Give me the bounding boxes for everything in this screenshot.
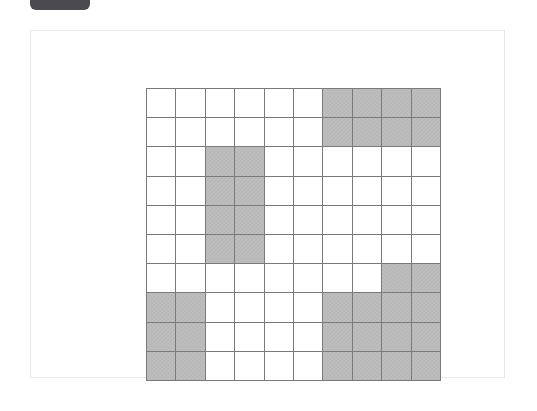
grid-cell-r1-c10[interactable]	[411, 89, 440, 118]
grid-cell-r9-c6[interactable]	[293, 322, 322, 351]
grid-cell-r1-c3[interactable]	[205, 89, 234, 118]
grid-cell-r2-c5[interactable]	[264, 118, 293, 147]
grid-cell-r8-c7[interactable]	[323, 293, 352, 322]
grid-cell-r8-c1[interactable]	[147, 293, 176, 322]
grid-cell-r8-c3[interactable]	[205, 293, 234, 322]
grid-cell-r4-c2[interactable]	[176, 176, 205, 205]
grid-cell-r5-c7[interactable]	[323, 205, 352, 234]
grid-cell-r7-c4[interactable]	[235, 264, 264, 293]
grid-cell-r10-c7[interactable]	[323, 351, 352, 380]
grid-cell-r9-c3[interactable]	[205, 322, 234, 351]
grid-cell-r6-c3[interactable]	[205, 234, 234, 263]
grid-cell-r10-c8[interactable]	[352, 351, 381, 380]
grid-cell-r4-c8[interactable]	[352, 176, 381, 205]
grid-cell-r5-c6[interactable]	[293, 205, 322, 234]
grid-cell-r1-c2[interactable]	[176, 89, 205, 118]
grid-cell-r5-c1[interactable]	[147, 205, 176, 234]
grid-cell-r4-c10[interactable]	[411, 176, 440, 205]
grid-cell-r3-c6[interactable]	[293, 147, 322, 176]
grid-cell-r7-c1[interactable]	[147, 264, 176, 293]
grid-cell-r1-c1[interactable]	[147, 89, 176, 118]
grid-cell-r1-c8[interactable]	[352, 89, 381, 118]
grid-cell-r6-c4[interactable]	[235, 234, 264, 263]
grid-cell-r2-c8[interactable]	[352, 118, 381, 147]
grid-cell-r10-c3[interactable]	[205, 351, 234, 380]
grid-cell-r4-c9[interactable]	[382, 176, 411, 205]
grid-cell-r4-c7[interactable]	[323, 176, 352, 205]
grid-cell-r3-c2[interactable]	[176, 147, 205, 176]
grid-cell-r10-c10[interactable]	[411, 351, 440, 380]
grid-cell-r6-c10[interactable]	[411, 234, 440, 263]
grid-cell-r9-c2[interactable]	[176, 322, 205, 351]
grid-cell-r2-c7[interactable]	[323, 118, 352, 147]
grid-cell-r9-c4[interactable]	[235, 322, 264, 351]
grid-cell-r1-c6[interactable]	[293, 89, 322, 118]
grid-cell-r8-c2[interactable]	[176, 293, 205, 322]
grid-cell-r3-c4[interactable]	[235, 147, 264, 176]
grid-cell-r2-c2[interactable]	[176, 118, 205, 147]
grid-cell-r2-c1[interactable]	[147, 118, 176, 147]
grid-cell-r6-c7[interactable]	[323, 234, 352, 263]
grid-cell-r9-c9[interactable]	[382, 322, 411, 351]
grid-cell-r1-c9[interactable]	[382, 89, 411, 118]
grid-cell-r10-c9[interactable]	[382, 351, 411, 380]
grid-cell-r3-c5[interactable]	[264, 147, 293, 176]
grid-cell-r6-c2[interactable]	[176, 234, 205, 263]
grid-cell-r9-c8[interactable]	[352, 322, 381, 351]
grid-cell-r10-c4[interactable]	[235, 351, 264, 380]
grid-cell-r2-c3[interactable]	[205, 118, 234, 147]
grid-cell-r7-c5[interactable]	[264, 264, 293, 293]
grid-cell-r5-c10[interactable]	[411, 205, 440, 234]
grid-cell-r5-c2[interactable]	[176, 205, 205, 234]
grid-cell-r7-c6[interactable]	[293, 264, 322, 293]
grid-cell-r10-c2[interactable]	[176, 351, 205, 380]
grid-cell-r6-c8[interactable]	[352, 234, 381, 263]
grid-cell-r6-c5[interactable]	[264, 234, 293, 263]
grid-cell-r9-c7[interactable]	[323, 322, 352, 351]
grid-cell-r3-c9[interactable]	[382, 147, 411, 176]
grid-cell-r2-c9[interactable]	[382, 118, 411, 147]
grid-cell-r3-c8[interactable]	[352, 147, 381, 176]
grid-cell-r7-c8[interactable]	[352, 264, 381, 293]
grid-cell-r5-c5[interactable]	[264, 205, 293, 234]
grid-cell-r5-c9[interactable]	[382, 205, 411, 234]
grid-cell-r6-c1[interactable]	[147, 234, 176, 263]
grid-cell-r8-c10[interactable]	[411, 293, 440, 322]
grid-cell-r2-c4[interactable]	[235, 118, 264, 147]
grid-cell-r8-c4[interactable]	[235, 293, 264, 322]
grid-cell-r9-c5[interactable]	[264, 322, 293, 351]
grid-cell-r5-c3[interactable]	[205, 205, 234, 234]
grid-cell-r1-c4[interactable]	[235, 89, 264, 118]
grid-cell-r7-c3[interactable]	[205, 264, 234, 293]
grid-cell-r4-c4[interactable]	[235, 176, 264, 205]
top-badge[interactable]	[30, 0, 90, 10]
grid-cell-r4-c5[interactable]	[264, 176, 293, 205]
grid-cell-r5-c4[interactable]	[235, 205, 264, 234]
grid-cell-r1-c7[interactable]	[323, 89, 352, 118]
grid-cell-r4-c3[interactable]	[205, 176, 234, 205]
grid-cell-r3-c1[interactable]	[147, 147, 176, 176]
grid-cell-r8-c5[interactable]	[264, 293, 293, 322]
grid-cell-r1-c5[interactable]	[264, 89, 293, 118]
grid-cell-r8-c8[interactable]	[352, 293, 381, 322]
grid-cell-r8-c6[interactable]	[293, 293, 322, 322]
grid-cell-r7-c2[interactable]	[176, 264, 205, 293]
grid-cell-r4-c1[interactable]	[147, 176, 176, 205]
grid-cell-r3-c3[interactable]	[205, 147, 234, 176]
grid-cell-r7-c7[interactable]	[323, 264, 352, 293]
grid-cell-r3-c10[interactable]	[411, 147, 440, 176]
grid-cell-r2-c10[interactable]	[411, 118, 440, 147]
grid-cell-r7-c10[interactable]	[411, 264, 440, 293]
grid-cell-r9-c1[interactable]	[147, 322, 176, 351]
grid-cell-r2-c6[interactable]	[293, 118, 322, 147]
grid-cell-r5-c8[interactable]	[352, 205, 381, 234]
grid-cell-r8-c9[interactable]	[382, 293, 411, 322]
grid-cell-r4-c6[interactable]	[293, 176, 322, 205]
grid-cell-r10-c1[interactable]	[147, 351, 176, 380]
grid-cell-r6-c9[interactable]	[382, 234, 411, 263]
grid-cell-r10-c6[interactable]	[293, 351, 322, 380]
grid-cell-r3-c7[interactable]	[323, 147, 352, 176]
grid-cell-r10-c5[interactable]	[264, 351, 293, 380]
grid-cell-r6-c6[interactable]	[293, 234, 322, 263]
grid-cell-r7-c9[interactable]	[382, 264, 411, 293]
